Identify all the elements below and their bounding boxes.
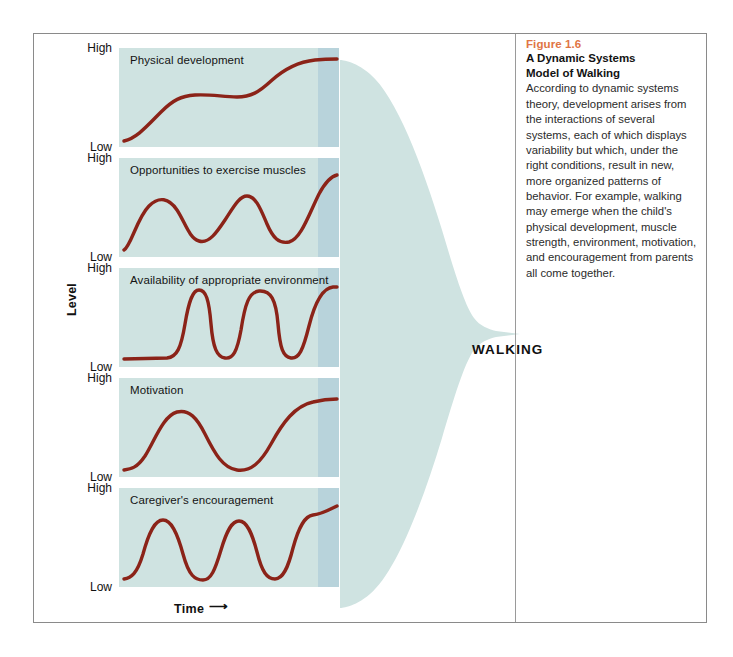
figure-title-line2: Model of Walking xyxy=(526,67,620,79)
y-axis-title: Level xyxy=(65,283,79,316)
panel-motivation: High Low Motivation xyxy=(119,378,339,477)
panel-caregivers-encouragement: High Low Caregiver's encouragement xyxy=(119,488,339,587)
panel-physical-development: High Low Physical development xyxy=(119,48,339,147)
x-axis-title: Time⟶ xyxy=(174,601,228,616)
panel-opportunities-to-exercise-muscles: High Low Opportunities to exercise muscl… xyxy=(119,158,339,257)
figure-title-line1: A Dynamic Systems xyxy=(526,52,636,64)
axis-label-low: Low xyxy=(90,580,112,594)
panel-title: Caregiver's encouragement xyxy=(130,494,273,506)
panel-availability-of-appropriate-environment: High Low Availability of appropriate env… xyxy=(119,268,339,367)
panel-title: Physical development xyxy=(130,54,244,66)
axis-label-high: High xyxy=(87,41,112,55)
panel-title: Availability of appropriate environment xyxy=(130,274,329,286)
figure-caption-body: According to dynamic systems theory, dev… xyxy=(526,81,698,281)
chart-stack: Level High Low Physical development High… xyxy=(34,34,514,622)
figure-number: Figure 1.6 xyxy=(526,38,698,50)
axis-label-high: High xyxy=(87,481,112,495)
x-axis-title-label: Time xyxy=(174,602,204,616)
arrow-right-icon: ⟶ xyxy=(209,599,228,614)
axis-label-high: High xyxy=(87,151,112,165)
panel-title: Opportunities to exercise muscles xyxy=(130,164,306,176)
figure-caption: Figure 1.6 A Dynamic Systems Model of Wa… xyxy=(526,34,698,281)
caption-divider xyxy=(515,34,516,622)
figure-title: A Dynamic Systems Model of Walking xyxy=(526,51,698,80)
axis-label-high: High xyxy=(87,371,112,385)
panel-title: Motivation xyxy=(130,384,183,396)
figure-container: Level High Low Physical development High… xyxy=(33,33,707,623)
axis-label-high: High xyxy=(87,261,112,275)
